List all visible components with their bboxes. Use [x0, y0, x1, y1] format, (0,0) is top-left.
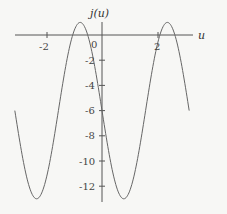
chart: j(u) u 0 -2 2 -2 -4 -6 -8 -10 -12: [0, 0, 227, 214]
y-axis-label: j(u): [87, 7, 109, 20]
x-tick-label: 2: [154, 41, 160, 52]
y-tick-label: -6: [85, 105, 95, 116]
origin-label: 0: [91, 39, 97, 50]
y-tick-label: -10: [79, 156, 95, 167]
y-tick-label: -8: [85, 130, 95, 141]
x-axis-label: u: [198, 29, 205, 42]
y-tick-label: -2: [85, 55, 95, 66]
x-tick-label: -2: [39, 41, 49, 52]
y-tick-label: -12: [79, 181, 95, 192]
y-tick-label: -4: [85, 80, 95, 91]
